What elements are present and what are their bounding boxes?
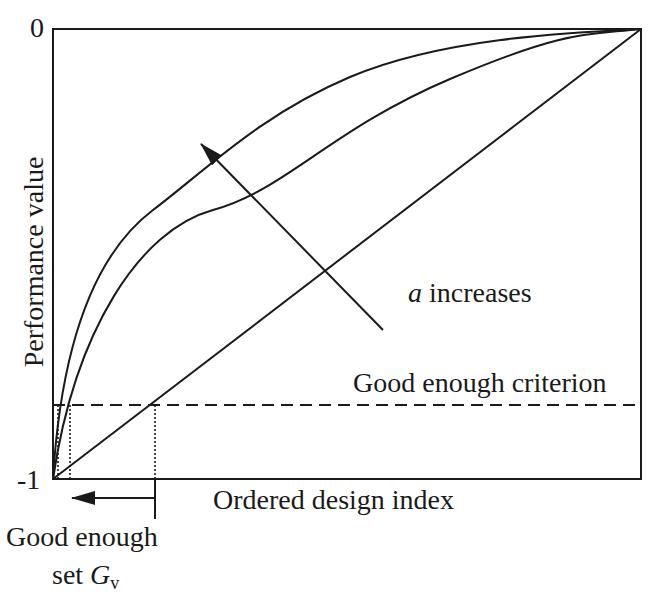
diagram: 0 -1 Performance value Ordered design in… [0, 0, 652, 609]
set-prefix: set [52, 559, 90, 590]
set-subscript: v [110, 573, 119, 593]
good-enough-set-label-line1: Good enough [6, 521, 158, 552]
increases-text: increases [422, 277, 532, 308]
a-variable: a [408, 277, 422, 308]
x-axis-label: Ordered design index [213, 484, 454, 515]
y-tick-0: 0 [30, 12, 44, 43]
good-enough-set-label-line2: set Gv [52, 559, 119, 593]
a-increases-label: a increases [408, 277, 532, 308]
linear-curve [53, 29, 641, 479]
y-tick-minus-1: -1 [17, 464, 40, 495]
set-symbol: G [90, 559, 110, 590]
y-axis-label: Performance value [18, 157, 49, 368]
criterion-label: Good enough criterion [353, 367, 607, 398]
